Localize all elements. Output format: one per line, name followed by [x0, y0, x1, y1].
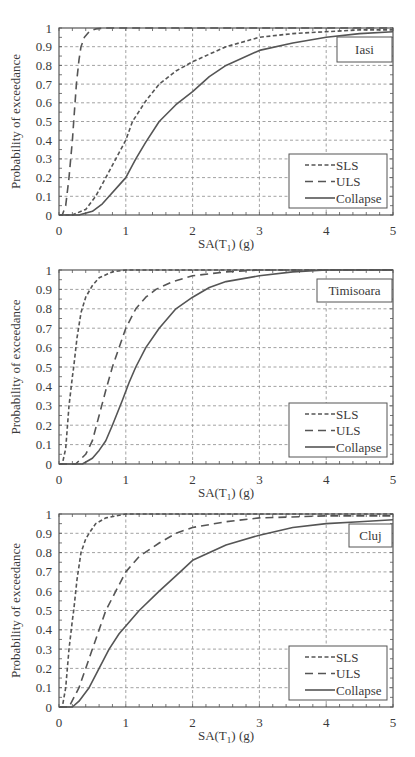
- y-tick-label: 1: [46, 507, 53, 522]
- chart-iasi: 00.10.20.30.40.50.60.70.80.91012345SA(T1…: [8, 21, 396, 254]
- legend-label-sls: SLS: [336, 650, 358, 665]
- y-tick-label: 0.3: [36, 151, 52, 166]
- y-tick-label: 1: [46, 263, 53, 278]
- x-tick-label: 0: [56, 223, 63, 238]
- y-tick-label: 0.9: [36, 526, 52, 541]
- x-tick-label: 2: [189, 715, 196, 730]
- y-tick-label: 0.4: [36, 133, 53, 148]
- y-tick-label: 0: [46, 457, 53, 472]
- chart-timisoara: 00.10.20.30.40.50.60.70.80.91012345SA(T1…: [8, 263, 396, 503]
- legend-label-uls: ULS: [336, 423, 361, 438]
- y-tick-label: 0.2: [36, 661, 52, 676]
- y-tick-label: 0.8: [36, 301, 52, 316]
- legend: SLSULSCollapse: [289, 403, 387, 457]
- y-tick-label: 0.7: [36, 77, 53, 92]
- station-label: Timisoara: [328, 283, 380, 298]
- x-tick-label: 4: [323, 472, 330, 487]
- legend-label-uls: ULS: [336, 174, 361, 189]
- y-tick-label: 0: [46, 700, 53, 715]
- x-axis-label: SA(T1) (g): [198, 236, 254, 253]
- y-tick-label: 0.8: [36, 545, 52, 560]
- legend: SLSULSCollapse: [289, 154, 387, 208]
- x-tick-label: 0: [56, 472, 63, 487]
- y-tick-label: 0: [46, 208, 53, 223]
- x-tick-label: 1: [123, 223, 130, 238]
- y-tick-label: 0.4: [36, 379, 53, 394]
- y-tick-label: 0.4: [36, 622, 53, 637]
- y-tick-label: 0.6: [36, 95, 53, 110]
- x-tick-label: 2: [189, 472, 196, 487]
- y-tick-label: 0.1: [36, 680, 52, 695]
- y-tick-label: 0.5: [36, 114, 52, 129]
- y-tick-label: 0.8: [36, 58, 52, 73]
- legend-label-collapse: Collapse: [336, 191, 382, 206]
- y-tick-label: 0.1: [36, 437, 52, 452]
- x-tick-label: 3: [256, 715, 263, 730]
- y-tick-label: 0.2: [36, 418, 52, 433]
- y-axis-label: Probability of exceedance: [8, 299, 23, 434]
- station-label: Cluj: [359, 528, 381, 543]
- y-tick-label: 0.6: [36, 584, 53, 599]
- y-tick-label: 0.6: [36, 340, 53, 355]
- y-axis-label: Probability of exceedance: [8, 543, 23, 678]
- y-tick-label: 0.9: [36, 282, 52, 297]
- legend-label-sls: SLS: [336, 407, 358, 422]
- legend-label-uls: ULS: [336, 666, 361, 681]
- x-tick-label: 4: [323, 715, 330, 730]
- y-tick-label: 0.9: [36, 39, 52, 54]
- legend: SLSULSCollapse: [289, 646, 387, 700]
- x-tick-label: 3: [256, 472, 263, 487]
- y-tick-label: 0.1: [36, 189, 52, 204]
- legend-label-sls: SLS: [336, 158, 358, 173]
- x-tick-label: 1: [123, 715, 130, 730]
- legend-label-collapse: Collapse: [336, 683, 382, 698]
- y-tick-label: 0.7: [36, 321, 53, 336]
- y-tick-label: 0.2: [36, 170, 52, 185]
- fragility-curves-figure: 00.10.20.30.40.50.60.70.80.91012345SA(T1…: [0, 0, 415, 757]
- y-axis-label: Probability of exceedance: [8, 54, 23, 189]
- x-tick-label: 5: [390, 715, 397, 730]
- y-tick-label: 0.3: [36, 642, 52, 657]
- x-tick-label: 5: [390, 472, 397, 487]
- x-tick-label: 0: [56, 715, 63, 730]
- x-axis-label: SA(T1) (g): [198, 728, 254, 745]
- y-tick-label: 0.5: [36, 603, 52, 618]
- chart-cluj: 00.10.20.30.40.50.60.70.80.91012345SA(T1…: [8, 507, 396, 746]
- legend-label-collapse: Collapse: [336, 440, 382, 455]
- x-tick-label: 3: [256, 223, 263, 238]
- x-tick-label: 5: [390, 223, 397, 238]
- x-tick-label: 4: [323, 223, 330, 238]
- x-tick-label: 1: [123, 472, 130, 487]
- y-tick-label: 1: [46, 21, 53, 36]
- station-label: Iasi: [355, 42, 374, 57]
- y-tick-label: 0.5: [36, 360, 52, 375]
- x-axis-label: SA(T1) (g): [198, 485, 254, 502]
- y-tick-label: 0.3: [36, 398, 52, 413]
- x-tick-label: 2: [189, 223, 196, 238]
- y-tick-label: 0.7: [36, 564, 53, 579]
